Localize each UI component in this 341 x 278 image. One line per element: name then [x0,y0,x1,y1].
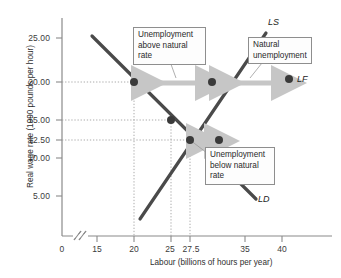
callout-below-line1: Unemployment [210,150,271,161]
callout-above-line1: Unemployment [138,30,202,41]
marker-ls-at-12-5 [186,136,194,144]
x-tick-40: 40 [269,244,295,254]
callout-above-line3: rate [138,51,202,62]
y-axis-ticks [56,38,62,196]
curve-label-ls: LS [268,17,279,27]
callout-above-line2: above natural [138,41,202,52]
labour-market-chart: 25.00 20.00 15.00 12.50 10.00 5.00 0 15 … [0,0,341,278]
marker-lf-at-20 [285,75,293,83]
callout-natural-unemployment: Natural unemployment [248,37,312,64]
axis-break-mark [73,231,88,240]
y-axis-title: Real wage rate (1990 pounds per hour) [26,32,35,202]
curve-label-lf: LF [297,74,308,84]
x-tick-35: 35 [232,244,258,254]
callout-natural-line2: unemployment [253,51,308,62]
curve-label-ld: LD [258,194,270,204]
callout-unemployment-above: Unemployment above natural rate [133,27,206,65]
callout-below-line2: below natural [210,161,271,172]
x-tick-20: 20 [121,244,147,254]
callout-below-line3: rate [210,171,271,182]
marker-equilibrium [167,116,175,124]
x-tick-15: 15 [84,244,110,254]
callout-natural-line1: Natural [253,40,308,51]
callout-leaders [168,56,262,153]
x-tick-27-5: 27.5 [178,244,204,254]
callout-unemployment-below: Unemployment below natural rate [205,147,275,185]
marker-ld-at-20 [130,78,138,86]
x-axis-title: Labour (billions of hours per year) [150,258,272,267]
marker-ld-at-12-5 [215,136,223,144]
marker-ls-at-20 [208,78,216,86]
x-axis-ticks [97,236,282,242]
x-tick-0: 0 [49,244,75,254]
